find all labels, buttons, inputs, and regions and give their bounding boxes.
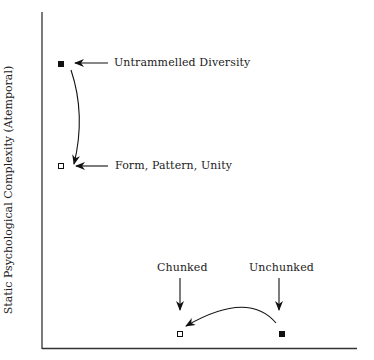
chunked-label: Chunked [157,261,208,274]
form-point [59,164,64,169]
transition-curve-vertical [71,70,79,164]
untrammelled-label: Untrammelled Diversity [114,56,250,69]
diagram: Static Psychological Complexity (Atempor… [0,0,374,360]
transition-curve-horizontal [186,307,276,326]
y-axis-label: Static Psychological Complexity (Atempor… [2,66,15,314]
chunked-point [178,332,183,337]
unchunked-point [279,331,285,337]
form-label: Form, Pattern, Unity [115,159,232,172]
untrammelled-point [58,61,64,67]
unchunked-label: Unchunked [249,261,314,274]
diagram-canvas [0,0,374,360]
